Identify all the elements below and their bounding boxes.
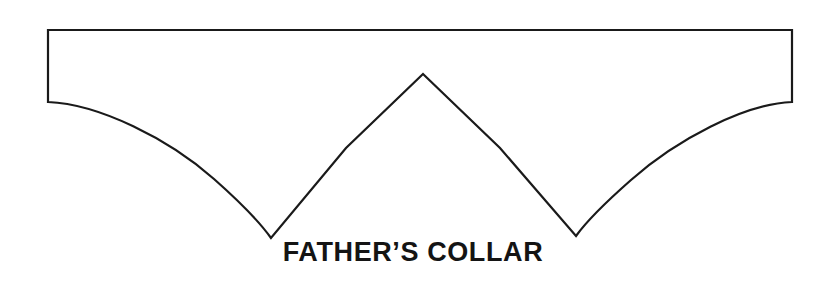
fathers-collar-diagram bbox=[0, 0, 838, 286]
pattern-canvas: FATHER’S COLLAR bbox=[0, 0, 838, 286]
